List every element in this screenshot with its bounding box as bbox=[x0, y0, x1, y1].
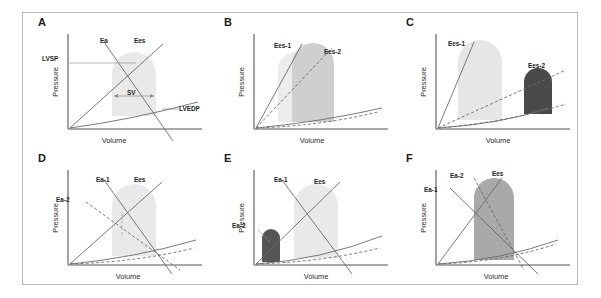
panel-letter-d: D bbox=[38, 152, 46, 164]
ees1-label: Ees-1 bbox=[274, 42, 291, 49]
pv-loop-figure: A Ea Ees LVSP SV LVEDP bbox=[0, 0, 601, 298]
panel-letter-e: E bbox=[224, 152, 231, 164]
x-axis-label: Volume bbox=[304, 272, 329, 281]
ea-label: Ea bbox=[100, 37, 108, 44]
ea1-label: Ea-1 bbox=[274, 176, 288, 183]
ees2-label: Ees-2 bbox=[528, 62, 545, 69]
y-axis-label: Pressure bbox=[419, 67, 428, 97]
x-axis-label: Volume bbox=[102, 136, 127, 145]
x-axis-label: Volume bbox=[484, 272, 509, 281]
ea1-label: Ea-1 bbox=[96, 176, 110, 183]
ees2-label: Ees-2 bbox=[324, 48, 341, 55]
pv-loop-1 bbox=[458, 40, 502, 120]
y-axis-label: Pressure bbox=[237, 67, 246, 97]
lvsp-label: LVSP bbox=[42, 55, 59, 62]
panel-letter-b: B bbox=[224, 16, 232, 28]
y-axis-label: Pressure bbox=[419, 203, 428, 233]
sv-label: SV bbox=[127, 89, 136, 96]
ea1-label: Ea-1 bbox=[424, 186, 438, 193]
x-axis-label: Volume bbox=[116, 272, 141, 281]
pv-loop-2 bbox=[524, 68, 552, 114]
panel-d: D Ea-1 Ees Ea-2 Volume Pressure bbox=[30, 152, 215, 288]
panel-c: C Ees-1 Ees-2 Volume Pressure bbox=[398, 16, 583, 152]
y-axis-label: Pressure bbox=[237, 203, 246, 233]
ees-label: Ees bbox=[134, 37, 146, 44]
panel-a: A Ea Ees LVSP SV LVEDP bbox=[30, 16, 215, 152]
ees1-label: Ees-1 bbox=[448, 40, 465, 47]
ees-label: Ees bbox=[314, 178, 326, 185]
panel-b: B Ees-1 Ees-2 Volume Pressure bbox=[216, 16, 401, 152]
pv-loop-2 bbox=[262, 229, 280, 262]
ees-label: Ees bbox=[134, 176, 146, 183]
panel-letter-f: F bbox=[406, 152, 413, 164]
lvedp-label: LVEDP bbox=[179, 105, 201, 112]
panel-e: E Ea-1 Ees Ea-2 Volume Pressure bbox=[216, 152, 401, 288]
panel-f: F Ea-2 Ees Ea-1 Volume Pressure bbox=[398, 152, 583, 288]
panel-letter-c: C bbox=[406, 16, 414, 28]
x-axis-label: Volume bbox=[486, 136, 511, 145]
pv-loop-1 bbox=[112, 184, 156, 256]
ees-label: Ees bbox=[492, 170, 504, 177]
x-axis-label: Volume bbox=[300, 136, 325, 145]
panel-letter-a: A bbox=[38, 16, 46, 28]
y-axis-label: Pressure bbox=[51, 67, 60, 97]
pv-loop-1 bbox=[474, 178, 514, 260]
y-axis-label: Pressure bbox=[51, 203, 60, 233]
ea2-label: Ea-2 bbox=[56, 196, 70, 203]
ea2-label: Ea-2 bbox=[450, 172, 464, 179]
